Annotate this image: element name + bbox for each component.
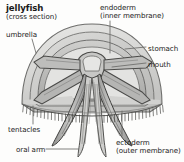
leader-umbrella [32,39,36,53]
label-endoderm-sub: (inner membrane) [100,12,164,20]
label-umbrella: umbrella [6,31,37,39]
label-ectoderm-sub: (outer membrane) [116,147,181,155]
figure-title: jellyfish [6,4,43,12]
label-tentacles: tentacles [8,126,40,134]
label-oral-arm: oral arm [16,146,45,154]
jellyfish-illustration [0,0,184,162]
jellyfish-cross-section-figure: jellyfish (cross section) umbrella endod… [0,0,184,162]
label-mouth: mouth [148,61,171,69]
label-stomach: stomach [148,45,178,53]
figure-subtitle: (cross section) [6,13,57,21]
